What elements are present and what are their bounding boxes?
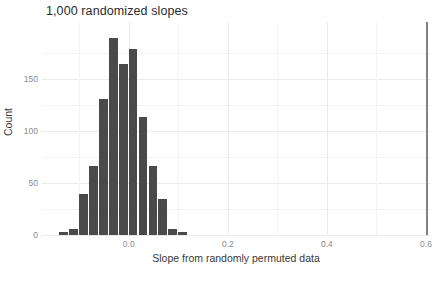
gridline-x-minor xyxy=(178,22,179,235)
chart-title: 1,000 randomized slopes xyxy=(46,4,188,18)
gridline-x-minor xyxy=(376,22,377,235)
y-tick-label: 50 xyxy=(29,178,38,188)
gridline-x xyxy=(228,22,229,235)
y-axis-tick-labels: 050100150 xyxy=(0,22,38,235)
gridline-y xyxy=(42,235,430,236)
histogram-bar xyxy=(149,166,158,235)
histogram-bar xyxy=(109,38,118,235)
histogram-bar xyxy=(178,232,187,235)
histogram-bar xyxy=(139,117,148,235)
histogram-bar xyxy=(168,229,177,235)
x-tick-label: 0.6 xyxy=(420,239,432,249)
histogram-bar xyxy=(158,199,167,235)
observed-slope-line xyxy=(426,22,428,235)
x-tick-label: 0.4 xyxy=(321,239,333,249)
histogram-bar xyxy=(99,99,108,235)
histogram-bar xyxy=(119,64,128,235)
x-axis-title: Slope from randomly permuted data xyxy=(42,252,430,264)
x-tick-label: 0.2 xyxy=(222,239,234,249)
y-tick-label: 150 xyxy=(24,74,38,84)
gridline-x-minor xyxy=(277,22,278,235)
histogram-bar xyxy=(129,49,138,235)
histogram-bar xyxy=(69,229,78,235)
histogram-bar xyxy=(89,166,98,235)
histogram-figure: 1,000 randomized slopes Count 050100150 … xyxy=(0,0,434,284)
gridline-x xyxy=(327,22,328,235)
x-axis-tick-labels: 0.00.20.40.6 xyxy=(42,239,430,253)
y-tick-label: 100 xyxy=(24,126,38,136)
plot-panel xyxy=(42,22,430,235)
histogram-bar xyxy=(59,232,68,235)
histogram-bar xyxy=(79,194,88,235)
y-tick-label: 0 xyxy=(33,230,38,240)
gridline-y-minor xyxy=(42,53,430,54)
x-tick-label: 0.0 xyxy=(123,239,135,249)
gridline-y xyxy=(42,79,430,80)
